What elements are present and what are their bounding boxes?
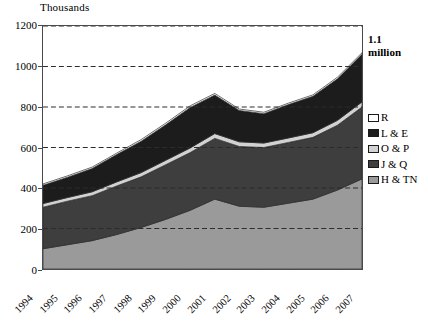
y-axis-tick-label: 400 <box>21 182 38 194</box>
x-axis-tick-label: 1997 <box>86 293 109 316</box>
legend-item-label: J & Q <box>381 157 407 173</box>
x-axis-tick-label: 1995 <box>37 293 60 316</box>
stacked-area-chart: Thousands 020040060080010001200 19941995… <box>0 0 428 326</box>
total-annotation-line1: 1.1 <box>368 33 401 46</box>
total-annotation: 1.1 million <box>368 33 401 59</box>
x-axis-labels: 1994199519961997199819992000200120022003… <box>42 272 363 326</box>
legend-item: O & P <box>368 141 417 157</box>
x-axis-tick-label: 1994 <box>12 293 35 316</box>
y-axis-tick-label: 600 <box>21 142 38 154</box>
legend-item: R <box>368 110 417 126</box>
plot-svg <box>43 26 362 269</box>
legend-swatch-icon <box>368 114 379 122</box>
y-axis-tick-label: 1200 <box>15 19 37 31</box>
y-axis-tick-label: 200 <box>21 223 38 235</box>
x-axis-tick-label: 2005 <box>284 293 307 316</box>
x-axis-tick-label: 1999 <box>136 293 159 316</box>
y-axis-tick-mark <box>38 270 42 271</box>
legend-swatch-icon <box>368 145 379 153</box>
legend-item-label: O & P <box>381 141 409 157</box>
legend-item: L & E <box>368 126 417 142</box>
legend-item-label: H & TN <box>381 172 417 188</box>
x-axis-tick-label: 2004 <box>259 293 282 316</box>
x-axis-tick-label: 1996 <box>62 293 85 316</box>
y-axis-unit-label: Thousands <box>40 1 89 13</box>
total-annotation-line2: million <box>368 46 401 59</box>
y-axis-tick-label: 0 <box>32 264 38 276</box>
y-axis-tick-label: 1000 <box>15 60 37 72</box>
x-axis-tick-label: 1998 <box>111 293 134 316</box>
x-axis-tick-label: 2003 <box>235 293 258 316</box>
legend-swatch-icon <box>368 176 379 184</box>
legend-item-label: R <box>381 110 388 126</box>
chart-legend: RL & EO & PJ & QH & TN <box>368 110 417 188</box>
x-axis-tick-label: 2007 <box>333 293 356 316</box>
legend-item: J & Q <box>368 157 417 173</box>
x-axis-tick-label: 2001 <box>185 293 208 316</box>
plot-area <box>42 25 363 270</box>
y-axis-tick-label: 800 <box>21 101 38 113</box>
x-axis-tick-label: 2006 <box>309 293 332 316</box>
legend-swatch-icon <box>368 160 379 168</box>
legend-item: H & TN <box>368 172 417 188</box>
x-axis-tick-label: 2002 <box>210 293 233 316</box>
legend-swatch-icon <box>368 129 379 137</box>
x-axis-tick-label: 2000 <box>160 293 183 316</box>
legend-item-label: L & E <box>381 126 408 142</box>
